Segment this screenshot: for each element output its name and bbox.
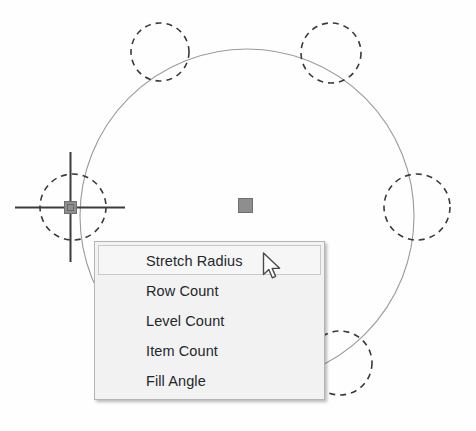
base-point-grip[interactable] [238, 198, 253, 213]
array-item-circle-top-left [131, 23, 189, 81]
menu-item-fill-angle[interactable]: Fill Angle [98, 365, 321, 395]
grip-multifunctional-menu[interactable]: Stretch Radius Row Count Level Count Ite… [94, 241, 325, 400]
array-item-circle-right [384, 174, 450, 240]
stretch-radius-grip[interactable] [64, 201, 77, 214]
menu-item-item-count[interactable]: Item Count [98, 335, 321, 365]
menu-item-stretch-radius[interactable]: Stretch Radius [98, 245, 321, 275]
array-item-circle-top-right [301, 23, 361, 83]
menu-item-row-count[interactable]: Row Count [98, 275, 321, 305]
drawing-canvas[interactable]: Stretch Radius Row Count Level Count Ite… [0, 0, 476, 431]
menu-item-level-count[interactable]: Level Count [98, 305, 321, 335]
